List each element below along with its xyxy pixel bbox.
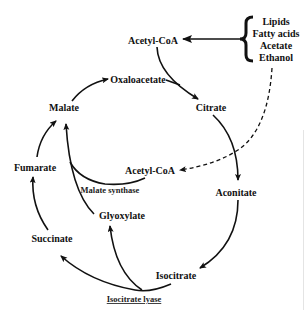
edge-sources-to-acetyl-coa-inner — [180, 68, 272, 170]
node-oxaloacetate: Oxaloacetate — [110, 74, 166, 85]
node-acetyl-coa-inner: Acetyl-CoA — [125, 165, 176, 176]
node-malate: Malate — [49, 102, 80, 113]
edge-aconitate-to-isocitrate — [200, 200, 238, 268]
node-glyoxylate: Glyoxylate — [99, 210, 146, 221]
node-succinate: Succinate — [31, 233, 73, 244]
source-fatty-acids: Fatty acids — [253, 28, 300, 39]
edge-glyoxylate-to-malate — [66, 124, 94, 214]
source-ethanol: Ethanol — [259, 52, 293, 63]
enzyme-isocitrate-lyase: Isocitrate lyase — [107, 294, 162, 304]
edge-malate-to-oxaloacetate — [72, 79, 108, 101]
edge-fumarate-to-malate — [37, 121, 56, 157]
enzyme-malate-synthase: Malate synthase — [81, 185, 140, 195]
edge-isocitrate-to-succinate — [61, 256, 171, 291]
edge-citrate-to-aconitate — [213, 115, 238, 180]
edge-succinate-to-fumarate — [33, 177, 48, 230]
node-acetyl-coa-top: Acetyl-CoA — [128, 35, 179, 46]
source-lipids: Lipids — [262, 16, 289, 27]
edge-isocitrate-to-glyoxylate — [110, 226, 142, 290]
sources-brace — [240, 17, 253, 61]
node-citrate: Citrate — [196, 102, 227, 113]
node-fumarate: Fumarate — [14, 162, 57, 173]
edge-divider — [303, 130, 304, 310]
edge-acetyl-coa-to-citrate — [157, 47, 198, 99]
source-acetate: Acetate — [260, 40, 293, 51]
glyoxylate-cycle-diagram: Lipids Fatty acids Acetate Ethanol Acety… — [0, 0, 305, 316]
node-isocitrate: Isocitrate — [156, 270, 197, 281]
node-aconitate: Aconitate — [215, 187, 257, 198]
